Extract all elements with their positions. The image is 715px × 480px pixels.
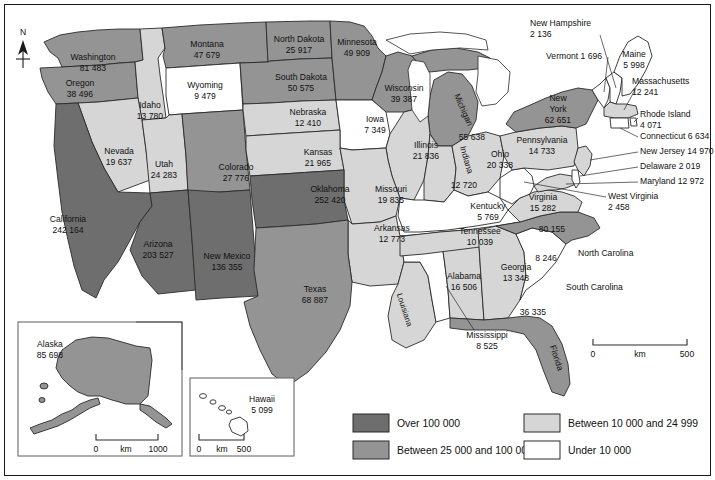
hawaii-scale-min: 0 — [197, 444, 202, 454]
north-arrow: N — [16, 27, 30, 68]
state-utah[interactable] — [142, 114, 188, 193]
region-hawaii-maui[interactable] — [226, 410, 231, 414]
map-legend: Over 100 000 Between 25 000 and 100 000 … — [353, 414, 698, 459]
value-new-hampshire: 2 136 — [530, 29, 552, 39]
label-washington: Washington — [70, 52, 115, 62]
value-alabama: 16 506 — [451, 282, 478, 292]
alaska-scale-unit: km — [120, 444, 131, 454]
value-oregon: 38 496 — [67, 89, 94, 99]
state-rhode-island[interactable] — [630, 118, 637, 126]
region-alaska-island-2[interactable] — [39, 398, 45, 403]
lake-huron-erie — [476, 56, 510, 106]
us-map-svg: Washington 81 483 Oregon 38 496 Idaho 13… — [0, 0, 715, 480]
value-arizona: 203 527 — [142, 250, 173, 260]
choropleth-map-figure: Washington 81 483 Oregon 38 496 Idaho 13… — [0, 0, 715, 480]
label-kentucky: Kentucky — [470, 201, 506, 211]
label-virginia: Virginia — [529, 192, 558, 202]
region-hawaii-kauai[interactable] — [200, 394, 207, 399]
label-south-carolina: South Carolina — [566, 282, 623, 292]
value-nevada: 19 637 — [106, 157, 133, 167]
hawaii-scale-unit: km — [216, 444, 227, 454]
value-new-mexico: 136 355 — [211, 262, 242, 272]
value-massachusetts: 12 241 — [632, 87, 659, 97]
legend-swatch-light[interactable] — [524, 414, 560, 432]
state-maryland[interactable] — [534, 174, 576, 192]
legend-swatch-over[interactable] — [353, 414, 389, 432]
label-north-carolina: North Carolina — [578, 248, 634, 258]
label-delaware: Delaware 2 019 — [640, 161, 700, 171]
value-colorado: 27 776 — [223, 173, 250, 183]
value-mississippi: 8 525 — [476, 341, 498, 351]
label-georgia: Georgia — [501, 262, 532, 272]
label-new-jersey: New Jersey 14 970 — [640, 146, 714, 156]
value-north-carolina: 80 155 — [539, 224, 566, 234]
scalebar-unit: km — [634, 349, 645, 359]
main-scalebar: 0 km 500 — [591, 339, 695, 359]
label-connecticut: Connecticut 6 634 — [640, 131, 709, 141]
value-virginia: 15 282 — [530, 203, 557, 213]
label-arizona: Arizona — [143, 239, 172, 249]
label-south-dakota: South Dakota — [275, 72, 327, 82]
label-wisconsin: Wisconsin — [384, 83, 423, 93]
scalebar-max: 500 — [680, 349, 695, 359]
label-montana: Montana — [190, 39, 224, 49]
legend-swatch-under[interactable] — [524, 441, 560, 459]
state-massachusetts[interactable] — [604, 102, 638, 118]
label-new-hampshire: New Hampshire — [530, 18, 591, 28]
value-texas: 68 887 — [302, 295, 329, 305]
label-pennsylvania: Pennsylvania — [516, 135, 567, 145]
value-montana: 47 679 — [194, 50, 221, 60]
value-ohio: 20 338 — [487, 160, 514, 170]
state-texas[interactable] — [244, 220, 352, 386]
legend-label-mid: Between 25 000 and 100 000 — [397, 445, 533, 456]
value-oklahoma: 252 420 — [314, 195, 345, 205]
state-new-mexico[interactable] — [188, 190, 258, 300]
label-wyoming: Wyoming — [187, 80, 223, 90]
state-connecticut[interactable] — [610, 118, 629, 128]
label-north-dakota: North Dakota — [274, 34, 325, 44]
label-arkansas: Arkansas — [374, 223, 410, 233]
value-washington: 81 483 — [80, 63, 107, 73]
label-hawaii: Hawaii — [249, 394, 275, 404]
label-colorado: Colorado — [219, 162, 254, 172]
value-california: 242 164 — [52, 225, 83, 235]
label-illinois: Illinois — [414, 140, 438, 150]
value-alaska: 85 698 — [37, 350, 64, 360]
label-missouri: Missouri — [375, 184, 407, 194]
region-hawaii-molokai[interactable] — [219, 406, 226, 411]
label-rhode-island: Rhode Island — [640, 109, 691, 119]
label-texas: Texas — [304, 284, 326, 294]
value-pennsylvania: 14 733 — [529, 146, 556, 156]
label-west-virginia: West Virginia — [608, 191, 659, 201]
hawaii-inset: Hawaii 5 099 0 km 500 — [190, 378, 294, 456]
value-north-dakota: 25 917 — [286, 45, 313, 55]
value-indiana: 12 720 — [451, 180, 478, 190]
region-alaska-island-1[interactable] — [40, 383, 48, 389]
legend-swatch-mid[interactable] — [353, 441, 389, 459]
value-michigan: 55 638 — [459, 132, 486, 142]
label-alabama: Alabama — [447, 271, 481, 281]
value-kansas: 21 965 — [305, 158, 332, 168]
label-nebraska: Nebraska — [290, 107, 327, 117]
value-nebraska: 12 410 — [295, 118, 322, 128]
label-ohio: Ohio — [491, 149, 509, 159]
label-oregon: Oregon — [66, 78, 95, 88]
value-maine: 5 998 — [623, 60, 645, 70]
alaska-scale-max: 1000 — [148, 444, 167, 454]
value-wisconsin: 39 387 — [391, 94, 418, 104]
value-idaho: 13 780 — [137, 111, 164, 121]
value-hawaii: 5 099 — [251, 405, 273, 415]
region-hawaii-oahu[interactable] — [210, 400, 216, 404]
value-wyoming: 9 479 — [194, 91, 216, 101]
leader-new-jersey — [590, 152, 638, 160]
value-iowa: 7 349 — [364, 125, 386, 135]
label-new-york-1: New — [549, 93, 567, 103]
label-utah: Utah — [155, 159, 173, 169]
value-illinois: 21 836 — [413, 151, 440, 161]
value-south-dakota: 50 575 — [288, 83, 315, 93]
label-idaho: Idaho — [139, 100, 161, 110]
label-nevada: Nevada — [104, 146, 134, 156]
label-minnesota: Minnesota — [337, 37, 377, 47]
value-tennessee: 10 039 — [467, 237, 494, 247]
label-massachusetts: Massachusetts — [632, 76, 689, 86]
